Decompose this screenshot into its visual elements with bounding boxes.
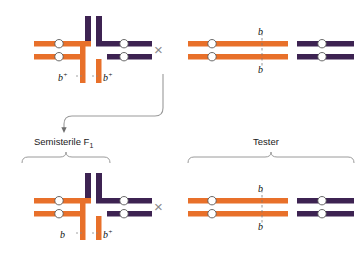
centromere-circle — [120, 40, 128, 48]
centromere-circle — [318, 210, 326, 218]
centromere-circle — [318, 197, 326, 205]
centromere-circle — [208, 40, 216, 48]
tester-bracket — [188, 152, 354, 163]
allele-label-bottom-right: b+ — [103, 228, 113, 240]
centromere-circle — [120, 210, 128, 218]
tester-allele-top: b — [258, 25, 263, 37]
bottom-tester-structure — [188, 190, 354, 225]
tester-allele-bottom: b — [258, 63, 263, 75]
orange-vertical-arm-right — [96, 216, 102, 240]
centromere-circle — [318, 40, 326, 48]
allele-label-top-right: b+ — [103, 71, 113, 83]
diagram-canvas — [0, 0, 360, 253]
bottom-translocation-structure — [34, 173, 152, 240]
allele-label-top-left: b+ — [58, 71, 68, 83]
top-tester-structure — [188, 33, 354, 68]
cross-symbol-bottom: × — [154, 199, 163, 214]
centromere-circle — [318, 53, 326, 61]
purple-horizontal-arm-lower — [107, 54, 152, 60]
purple-horizontal-arm-lower — [107, 211, 152, 217]
orange-vertical-arm-right — [96, 59, 102, 83]
tester-label: Tester — [253, 136, 279, 147]
centromere-circle — [120, 53, 128, 61]
centromere-circle — [208, 197, 216, 205]
tester-orange-chromosome-upper — [188, 41, 288, 47]
f1-bracket — [22, 152, 110, 163]
tester-orange-chromosome-lower — [188, 211, 288, 217]
tester-orange-chromosome-upper — [188, 198, 288, 204]
tester-orange-chromosome-lower — [188, 54, 288, 60]
centromere-circle — [208, 53, 216, 61]
centromere-circle — [55, 197, 63, 205]
tester-allele-top: b — [258, 182, 263, 194]
centromere-circle — [55, 40, 63, 48]
orange-vertical-arm-left — [80, 203, 86, 240]
semisterile-f1-label: Semisterile F1 — [34, 136, 93, 149]
orange-vertical-arm-left — [80, 46, 86, 83]
tester-allele-bottom: b — [258, 220, 263, 232]
cross-symbol-top: × — [154, 42, 163, 57]
genetics-diagram: b+ b+ × b b Semisterile F1 Tester b b+ ×… — [0, 0, 360, 253]
top-translocation-structure — [34, 16, 152, 83]
centromere-circle — [55, 53, 63, 61]
allele-label-bottom-left: b — [60, 228, 65, 240]
generation-arrow — [64, 74, 163, 130]
centromere-circle — [55, 210, 63, 218]
centromere-circle — [120, 197, 128, 205]
centromere-circle — [208, 210, 216, 218]
